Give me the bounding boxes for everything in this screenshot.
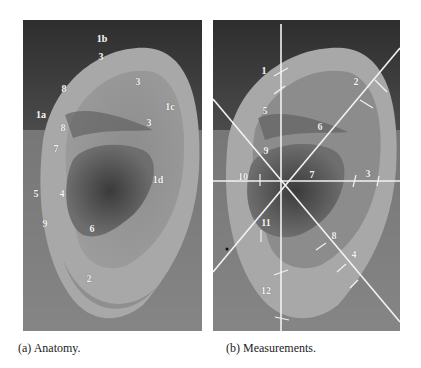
measurement-label: 11 (261, 218, 270, 228)
anatomy-label: 1a (36, 110, 46, 120)
ear-anatomy-image: 1b 3 3 8 1c 1a 3 8 7 1d 5 4 9 6 2 (23, 20, 202, 331)
anatomy-label: 7 (54, 144, 59, 154)
measurement-label: 4 (352, 250, 357, 260)
anatomy-label: 1d (153, 175, 164, 185)
anatomy-label: 6 (90, 224, 95, 234)
anatomy-label: 3 (136, 77, 141, 87)
anatomy-label: 5 (34, 189, 39, 199)
measurement-label: 5 (263, 106, 268, 116)
anatomy-label: 8 (62, 84, 67, 94)
caption-measurements: (b) Measurements. (226, 341, 316, 356)
anatomy-label: 1c (165, 102, 174, 112)
measurement-label: 2 (354, 77, 359, 87)
anatomy-label: 4 (60, 189, 65, 199)
anatomy-label: 8 (61, 123, 66, 133)
anatomy-label: 2 (87, 274, 92, 284)
ear-anatomy-photo (23, 20, 202, 331)
measurement-label: 10 (238, 172, 248, 182)
anatomy-label: 1b (97, 34, 108, 44)
measurement-label: 12 (261, 286, 271, 296)
measurement-label: 9 (264, 146, 269, 156)
measurement-label: 1 (262, 66, 267, 76)
measurement-label: 6 (318, 122, 323, 132)
ear-measurements-image: 1 2 5 6 9 10 7 3 11 8 4 12 (213, 20, 400, 331)
caption-anatomy: (a) Anatomy. (18, 341, 81, 356)
anatomy-label: 9 (43, 219, 48, 229)
anatomy-label: 3 (147, 118, 152, 128)
measurement-label: 7 (310, 170, 315, 180)
anatomy-label: 3 (99, 52, 104, 62)
measurement-label: 3 (366, 169, 371, 179)
measurement-label: 8 (332, 231, 337, 241)
